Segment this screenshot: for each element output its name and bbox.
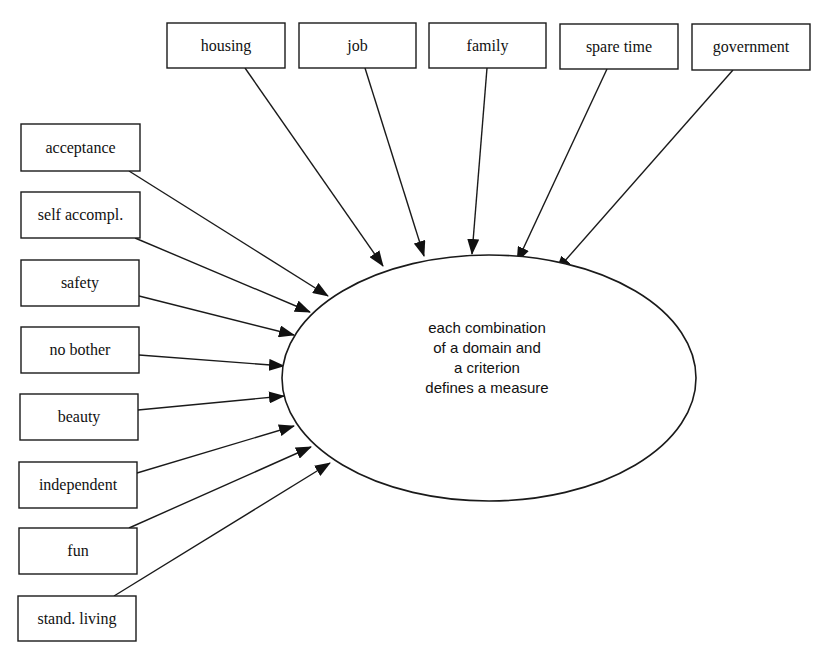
domain-label: government bbox=[713, 38, 790, 56]
criterion-boxes: acceptanceself accompl.safetyno botherbe… bbox=[18, 124, 140, 641]
measurement-diagram: each combinationof a domain anda criteri… bbox=[0, 0, 830, 662]
criterion-label: safety bbox=[61, 274, 99, 292]
criterion-arrow-2 bbox=[139, 296, 294, 335]
criterion-box-fun: fun bbox=[19, 528, 137, 574]
criterion-arrow-4 bbox=[138, 396, 284, 410]
criterion-box-safety: safety bbox=[21, 260, 139, 306]
criterion-arrow-5 bbox=[137, 426, 294, 473]
criterion-arrow-3 bbox=[139, 355, 284, 366]
criterion-label: fun bbox=[67, 542, 88, 559]
criterion-box-acceptance: acceptance bbox=[21, 124, 140, 171]
criterion-box-independent: independent bbox=[19, 462, 137, 508]
criterion-label: stand. living bbox=[37, 610, 116, 628]
criterion-box-no-bother: no bother bbox=[21, 327, 139, 373]
domain-box-family: family bbox=[429, 23, 546, 68]
domain-label: housing bbox=[201, 37, 252, 55]
domain-label: job bbox=[346, 37, 367, 55]
criterion-box-beauty: beauty bbox=[20, 394, 138, 440]
center-node: each combinationof a domain anda criteri… bbox=[282, 255, 696, 501]
domain-arrow-4 bbox=[556, 70, 733, 271]
domain-boxes: housingjobfamilyspare timegovernment bbox=[167, 23, 810, 70]
criterion-box-self-accompl-: self accompl. bbox=[21, 192, 140, 238]
measure-text-line: each combination bbox=[428, 319, 546, 336]
domain-arrow-2 bbox=[472, 68, 487, 254]
criterion-label: beauty bbox=[58, 408, 101, 426]
measure-ellipse bbox=[282, 255, 696, 501]
criterion-arrow-7 bbox=[114, 463, 330, 596]
criterion-label: no bother bbox=[50, 341, 112, 358]
measure-text-line: of a domain and bbox=[433, 339, 541, 356]
domain-arrow-3 bbox=[517, 69, 607, 262]
domain-box-government: government bbox=[692, 24, 810, 70]
measure-text-line: a criterion bbox=[454, 359, 520, 376]
domain-arrow-1 bbox=[365, 68, 424, 256]
domain-box-spare-time: spare time bbox=[560, 24, 678, 69]
criterion-box-stand-living: stand. living bbox=[18, 596, 136, 641]
domain-box-housing: housing bbox=[167, 23, 285, 68]
criterion-label: independent bbox=[39, 476, 118, 494]
domain-label: family bbox=[467, 37, 509, 55]
domain-arrow-0 bbox=[245, 68, 383, 266]
criterion-arrow-6 bbox=[129, 447, 311, 528]
domain-label: spare time bbox=[586, 38, 652, 56]
criterion-label: acceptance bbox=[45, 139, 115, 157]
measure-text-line: defines a measure bbox=[425, 379, 548, 396]
criterion-label: self accompl. bbox=[38, 206, 123, 224]
domain-box-job: job bbox=[299, 23, 416, 68]
